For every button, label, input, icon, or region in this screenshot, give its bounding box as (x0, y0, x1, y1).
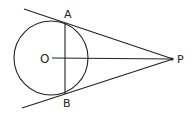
point-p-marker (170, 57, 173, 60)
label-p: P (177, 53, 184, 66)
tangent-line-pb (22, 59, 173, 108)
label-o: O (40, 52, 49, 66)
label-b: B (63, 97, 71, 110)
diagram-canvas: O A B P (0, 0, 194, 116)
label-a: A (64, 8, 72, 21)
segment-op (52, 58, 173, 59)
geometry-figure: O A B P (0, 0, 194, 116)
